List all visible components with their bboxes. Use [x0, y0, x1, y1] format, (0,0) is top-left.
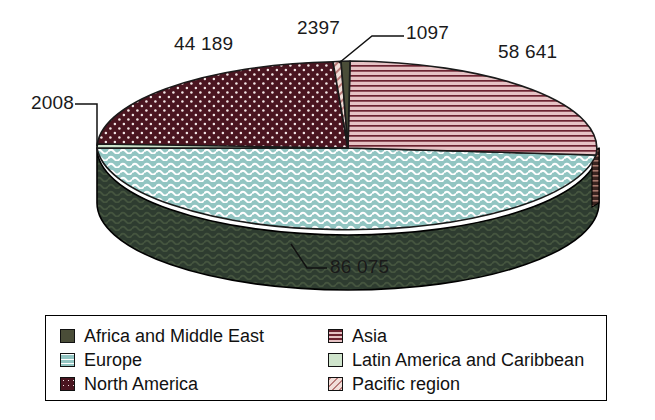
legend-label-asia: Asia: [352, 327, 387, 345]
pie-slice-north-america: [97, 62, 348, 148]
legend-swatch-europe: [60, 353, 75, 367]
legend-item-asia: Asia: [328, 327, 606, 345]
legend-label-africa-and-middle-east: Africa and Middle East: [84, 327, 264, 345]
legend-label-europe: Europe: [84, 351, 142, 369]
legend-swatch-latin-america-and-caribbean: [328, 353, 343, 367]
legend-item-africa-and-middle-east: Africa and Middle East: [60, 327, 328, 345]
legend-item-north-america: North America: [60, 375, 328, 393]
value-label-pacific-region: 1097: [406, 22, 449, 44]
leader-line-latin-america: [75, 104, 97, 146]
value-label-europe: 86 075: [330, 256, 389, 278]
legend-item-latin-america-and-caribbean: Latin America and Caribbean: [328, 351, 606, 369]
legend-item-europe: Europe: [60, 351, 328, 369]
leader-line-pacific: [339, 36, 404, 63]
value-label-latin-america: 2008: [31, 92, 74, 114]
value-label-africa-middle-east: 2397: [297, 17, 340, 39]
chart-legend: Africa and Middle East Asia Europe Latin…: [45, 315, 607, 401]
legend-swatch-pacific-region: [328, 377, 343, 391]
legend-swatch-africa-and-middle-east: [60, 329, 75, 343]
legend-label-latin-america-and-caribbean: Latin America and Caribbean: [352, 351, 584, 369]
legend-swatch-north-america: [60, 377, 75, 391]
value-label-asia: 58 641: [498, 41, 557, 63]
legend-swatch-asia: [328, 329, 343, 343]
legend-label-pacific-region: Pacific region: [352, 375, 460, 393]
legend-item-pacific-region: Pacific region: [328, 375, 606, 393]
pie-slice-asia: [348, 61, 597, 155]
pie-top-face: [97, 61, 597, 230]
value-label-north-america: 44 189: [174, 33, 233, 55]
legend-label-north-america: North America: [84, 375, 198, 393]
pie-chart-figure: 44 189 2397 1097 58 641 2008 86 075 Afri…: [0, 0, 655, 420]
